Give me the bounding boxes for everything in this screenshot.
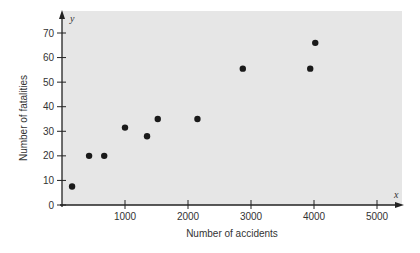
y-tick-label: 40 xyxy=(43,101,55,112)
y-axis-title: Number of fatalities xyxy=(18,75,29,161)
y-axis-variable: y xyxy=(69,13,75,24)
data-point xyxy=(86,153,92,159)
data-point xyxy=(69,183,75,189)
data-point xyxy=(101,153,107,159)
y-tick-label: 10 xyxy=(43,175,55,186)
y-tick-label: 0 xyxy=(48,200,54,211)
data-point xyxy=(312,40,318,46)
data-point xyxy=(122,124,128,130)
y-tick-label: 50 xyxy=(43,77,55,88)
x-axis-title: Number of accidents xyxy=(186,228,278,239)
x-tick-label: 2000 xyxy=(177,211,200,222)
x-tick-label: 3000 xyxy=(240,211,263,222)
scatter-chart: 010203040506070 10002000300040005000 x y… xyxy=(0,0,420,253)
y-tick-label: 70 xyxy=(43,28,55,39)
data-point xyxy=(144,133,150,139)
y-tick-label: 20 xyxy=(43,150,55,161)
x-tick-label: 1000 xyxy=(114,211,137,222)
x-tick-label: 5000 xyxy=(366,211,389,222)
y-tick-label: 30 xyxy=(43,126,55,137)
data-point xyxy=(307,65,313,71)
plot-area xyxy=(62,11,402,205)
x-axis-variable: x xyxy=(393,189,399,200)
data-point xyxy=(155,116,161,122)
y-tick-label: 60 xyxy=(43,52,55,63)
data-point xyxy=(194,116,200,122)
x-tick-label: 4000 xyxy=(303,211,326,222)
data-point xyxy=(240,65,246,71)
